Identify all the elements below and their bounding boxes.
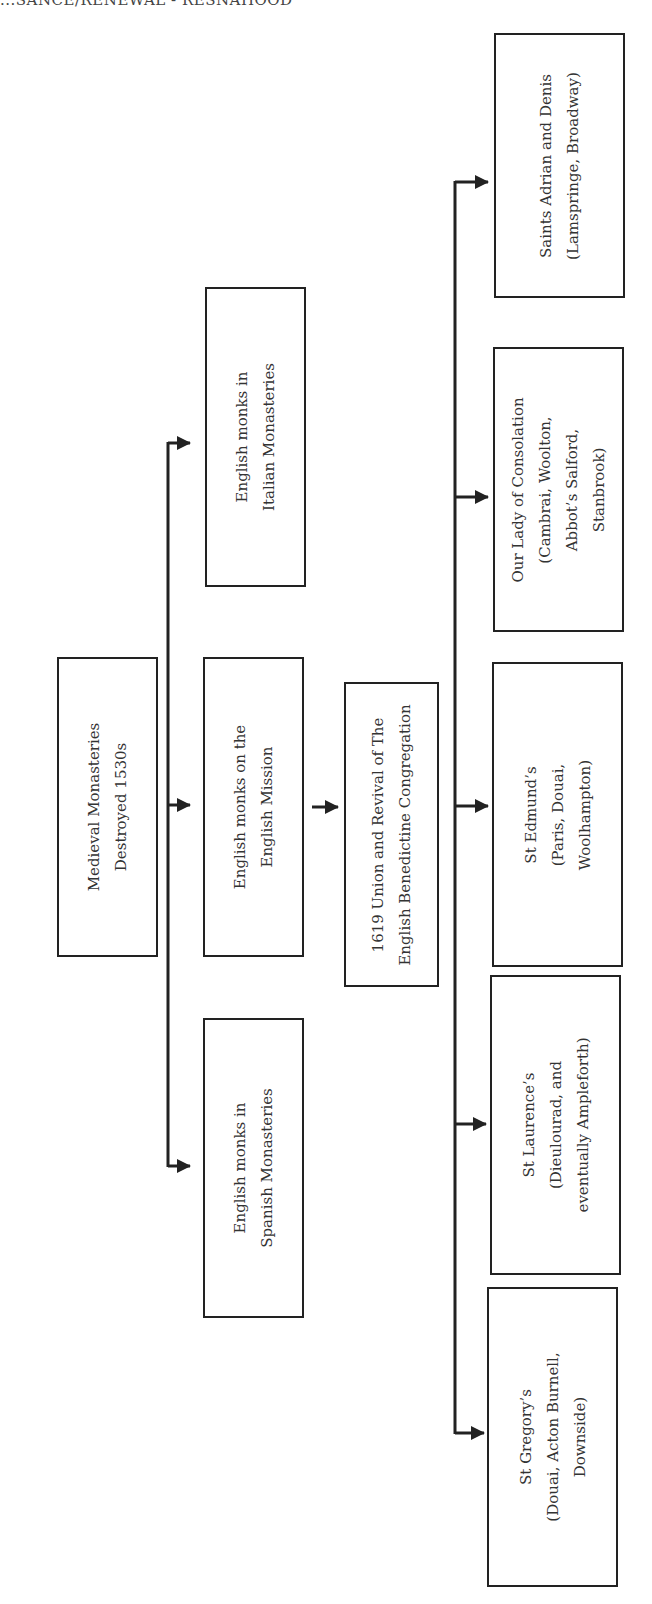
node-label: Medieval Monasteries Destroyed 1530s	[81, 657, 135, 957]
node-st-laurences: St Laurence’s (Dieulourad, and eventuall…	[490, 975, 621, 1275]
node-label: St Laurence’s (Dieulourad, and eventuall…	[515, 975, 596, 1275]
node-label: Saints Adrian and Denis (Lamspringe, Bro…	[533, 33, 587, 298]
node-label: St Gregory’s (Douai, Acton Burnell, Down…	[512, 1287, 593, 1587]
node-label: English monks in Italian Monasteries	[229, 287, 283, 587]
node-spanish-monasteries: English monks in Spanish Monasteries	[203, 1018, 304, 1318]
node-saints-adrian-denis: Saints Adrian and Denis (Lamspringe, Bro…	[494, 33, 625, 298]
node-st-edmunds: St Edmund’s (Paris, Douai, Woolhampton)	[492, 662, 623, 967]
node-st-gregorys: St Gregory’s (Douai, Acton Burnell, Down…	[487, 1287, 618, 1587]
node-english-mission: English monks on the English Mission	[203, 657, 304, 957]
node-label: 1619 Union and Revival of The English Be…	[365, 682, 419, 987]
node-label: English monks in Spanish Monasteries	[227, 1018, 281, 1318]
node-label: Our Lady of Consolation (Cambrai, Woolto…	[505, 347, 613, 632]
node-our-lady-of-consolation: Our Lady of Consolation (Cambrai, Woolto…	[493, 347, 624, 632]
node-label: English monks on the English Mission	[227, 657, 281, 957]
node-italian-monasteries: English monks in Italian Monasteries	[205, 287, 306, 587]
root-branch-connector	[168, 442, 190, 1167]
node-medieval-monasteries: Medieval Monasteries Destroyed 1530s	[57, 657, 158, 957]
node-label: St Edmund’s (Paris, Douai, Woolhampton)	[517, 662, 598, 967]
union-branch-connector	[455, 181, 488, 1434]
node-1619-union: 1619 Union and Revival of The English Be…	[344, 682, 439, 987]
